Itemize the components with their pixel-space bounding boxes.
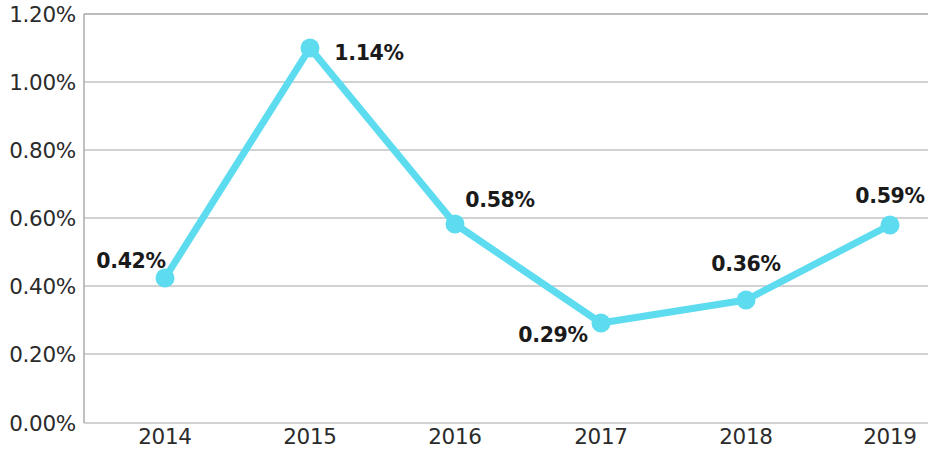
x-axis-tick-label: 2014	[138, 424, 192, 449]
data-point-markers-group	[156, 39, 900, 333]
y-axis-tick-label: 1.00%	[0, 70, 76, 95]
x-axis-tick-label: 2016	[428, 424, 482, 449]
y-axis-tick-label: 1.20%	[0, 2, 76, 27]
data-point-value-label: 0.29%	[518, 323, 588, 347]
chart-canvas	[0, 0, 940, 451]
series-line	[165, 48, 890, 323]
data-point-marker[interactable]	[301, 39, 320, 58]
y-axis-tick-label: 0.00%	[0, 411, 76, 436]
data-point-marker[interactable]	[446, 215, 465, 234]
data-point-marker[interactable]	[737, 291, 756, 310]
y-axis-tick-label: 0.60%	[0, 206, 76, 231]
data-point-marker[interactable]	[592, 314, 611, 333]
data-point-value-label: 0.42%	[96, 249, 166, 273]
y-axis-tick-label: 0.80%	[0, 138, 76, 163]
data-point-value-label: 0.36%	[711, 252, 781, 276]
x-axis-tick-label: 2017	[574, 424, 628, 449]
x-axis-tick-label: 2019	[863, 424, 917, 449]
gridlines-group	[84, 14, 928, 423]
x-axis-tick-label: 2015	[283, 424, 337, 449]
data-point-value-label: 1.14%	[334, 41, 404, 65]
line-chart: 1.20%1.00%0.80%0.60%0.40%0.20%0.00% 2014…	[0, 0, 940, 451]
y-axis-tick-label: 0.40%	[0, 274, 76, 299]
data-point-value-label: 0.59%	[855, 184, 925, 208]
data-point-value-label: 0.58%	[465, 188, 535, 212]
x-axis-tick-label: 2018	[719, 424, 773, 449]
data-point-marker[interactable]	[881, 216, 900, 235]
y-axis-tick-label: 0.20%	[0, 342, 76, 367]
